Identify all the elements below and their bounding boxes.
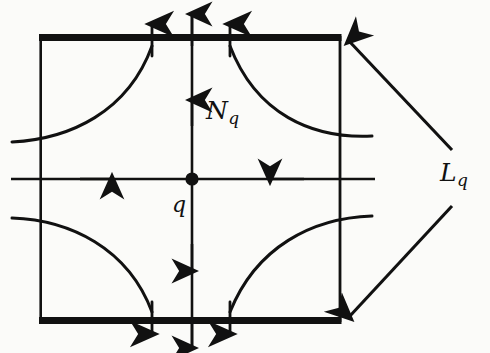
fixed-point-marker <box>185 172 198 185</box>
label-unstable-manifold-base: N <box>206 96 228 125</box>
curve-bottom-left <box>12 218 152 312</box>
curve-top-right <box>230 46 372 136</box>
label-fixed-point: q <box>172 192 186 217</box>
label-stable-manifold: Lq <box>440 158 468 190</box>
label-fixed-point-base: q <box>172 192 186 217</box>
figure-canvas: Nq Lq q <box>0 0 490 353</box>
label-unstable-manifold: Nq <box>206 96 239 128</box>
leader-arrow-top-right <box>349 41 452 150</box>
label-stable-manifold-subscript: q <box>457 170 468 190</box>
label-stable-manifold-base: L <box>440 158 457 187</box>
diagram-svg <box>0 0 490 353</box>
leader-arrow-bottom-right <box>349 206 452 317</box>
curve-bottom-right <box>230 216 372 312</box>
curve-top-left <box>12 46 152 142</box>
label-unstable-manifold-subscript: q <box>228 108 239 128</box>
